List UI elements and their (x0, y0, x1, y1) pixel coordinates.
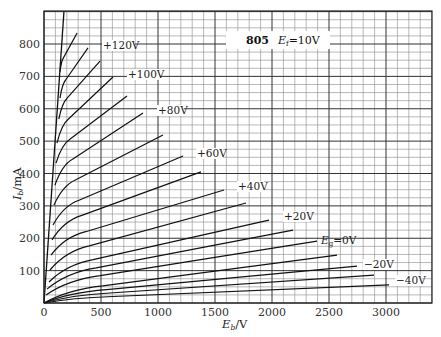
title-box: 805 Ef=10V (226, 31, 330, 49)
curve--40v (51, 190, 224, 255)
curve-label: +80V (158, 104, 188, 116)
tube-type-label: 805 (246, 34, 269, 47)
y-tick-label: 600 (19, 103, 40, 116)
y-tick-label: 700 (19, 70, 40, 83)
curve-label-eg-0v: Eg=0V (320, 234, 357, 248)
curve--30v (44, 275, 374, 303)
curve-label: +20V (284, 210, 314, 222)
curve--60v (53, 156, 183, 225)
curve-label: +120V (103, 39, 140, 51)
y-tick-label: 200 (19, 232, 40, 245)
curve--10v (47, 230, 293, 289)
x-tick-label: 2000 (258, 306, 286, 319)
y-tick-label: 300 (19, 200, 40, 213)
curve-label: −40V (396, 274, 426, 286)
filament-voltage-label: Ef=10V (277, 34, 321, 48)
x-tick-label: 1000 (144, 306, 172, 319)
curve-label: +100V (128, 68, 165, 80)
x-tick-label: 3000 (372, 306, 400, 319)
x-tick-label: 500 (91, 306, 112, 319)
y-tick-label: 800 (19, 38, 40, 51)
curve--110v (59, 61, 100, 119)
y-tick-label: 100 (19, 265, 40, 278)
x-tick-label: 0 (41, 306, 48, 319)
plate-characteristic-chart: +120V+100V+80V+60V+40V+20VEg=0V−20V−40V … (0, 0, 441, 337)
y-axis-title: Ib/mA (10, 167, 25, 201)
x-axis-title: Eb/V (221, 317, 248, 332)
curve--20v (49, 220, 269, 282)
curve-label: +60V (197, 147, 227, 159)
y-tick-label: 500 (19, 135, 40, 148)
curve-label: +40V (238, 180, 268, 192)
x-tick-label: 2500 (315, 306, 343, 319)
curve-label: −20V (364, 258, 394, 270)
